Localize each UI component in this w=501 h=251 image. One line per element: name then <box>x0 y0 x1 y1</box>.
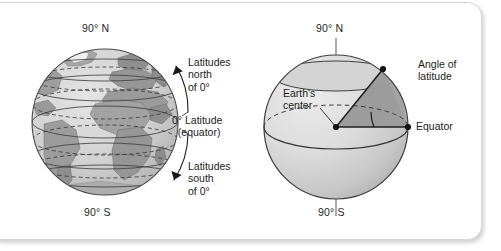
equator-point-dot <box>405 124 411 130</box>
callout-earths-center: Earth's center <box>283 87 315 112</box>
callout-latitudes-north: Latitudes north of 0° <box>188 56 231 93</box>
left-globe-panel: 90° N 90° S <box>0 0 250 251</box>
callout-zero-latitude-equator: 0° Latitude (equator) <box>172 114 222 139</box>
callout-equator: Equator <box>416 120 453 132</box>
right-globe-graphic <box>250 0 501 251</box>
callout-latitudes-south: Latitudes south of 0° <box>188 160 231 197</box>
earth-center-dot <box>333 124 339 130</box>
figure-stage: 90° N 90° S <box>0 0 501 251</box>
latitude-point-dot <box>380 66 386 72</box>
right-globe-panel: 90° N 90° S <box>250 0 500 251</box>
callout-angle-of-latitude: Angle of latitude <box>418 58 457 83</box>
